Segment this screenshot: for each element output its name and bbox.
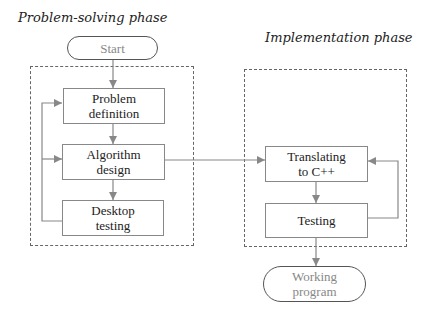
- testing-label: Testing: [297, 213, 335, 228]
- problem-definition-step: Problem definition: [63, 88, 165, 124]
- working-program-terminal: Working program: [263, 266, 366, 302]
- algorithm-design-step: Algorithm design: [62, 144, 165, 180]
- working-program-label: Working program: [292, 269, 337, 299]
- desktop-testing-label: Desktop testing: [91, 203, 134, 233]
- testing-step: Testing: [265, 203, 368, 238]
- problem-definition-label: Problem definition: [89, 91, 140, 121]
- desktop-testing-step: Desktop testing: [62, 200, 164, 236]
- algorithm-design-label: Algorithm design: [86, 147, 140, 177]
- translating-label: Translating to C++: [287, 149, 346, 179]
- loop-testing-to-translating: [368, 161, 398, 218]
- start-terminal: Start: [67, 36, 158, 60]
- translating-step: Translating to C++: [265, 146, 368, 182]
- loop-desktop-testing-to-problem-definition: [42, 103, 62, 221]
